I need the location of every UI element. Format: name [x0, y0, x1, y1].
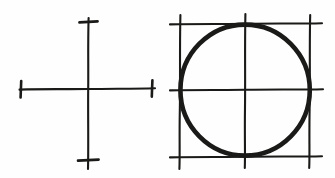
figures-svg — [0, 0, 335, 178]
grid-horizontal-middle-line — [170, 89, 323, 90]
right-figure-circle-in-square — [170, 14, 323, 169]
drawing-canvas: Cross of two perpendicular axes with end… — [0, 0, 335, 178]
tick-top-icon — [79, 21, 97, 22]
grid-vertical-center-line — [245, 14, 246, 168]
vertical-axis-line — [88, 18, 89, 169]
tick-right-icon — [152, 80, 153, 96]
tick-left-icon — [21, 81, 22, 98]
left-figure-axis-cross — [20, 18, 156, 169]
tick-bottom-icon — [78, 160, 99, 161]
